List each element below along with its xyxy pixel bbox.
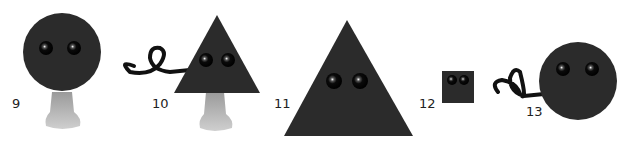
figure-label-11: 11 <box>274 96 291 111</box>
eye-icon <box>39 41 53 55</box>
eye-icon <box>447 75 457 85</box>
tail-icon <box>125 48 190 73</box>
figure-13 <box>495 42 617 120</box>
figure-label-12: 12 <box>419 96 436 111</box>
foot-icon <box>200 92 233 131</box>
tail-icon <box>495 70 544 96</box>
figure-label-13: 13 <box>526 104 543 119</box>
eye-icon <box>199 53 213 67</box>
eye-icon <box>67 41 81 55</box>
figure-9 <box>23 13 101 129</box>
eye-icon <box>352 73 368 89</box>
eye-icon <box>459 75 469 85</box>
figure-10 <box>125 15 260 131</box>
figure-label-9: 9 <box>12 96 20 111</box>
figure-label-10: 10 <box>152 96 169 111</box>
triangle-body <box>174 15 260 93</box>
circle-body <box>23 13 101 91</box>
figure-12 <box>442 71 474 103</box>
eye-icon <box>556 62 570 76</box>
foot-icon <box>46 92 81 129</box>
eye-icon <box>221 53 235 67</box>
figures-canvas <box>0 0 630 143</box>
figure-11 <box>284 20 413 136</box>
eye-icon <box>326 73 342 89</box>
eye-icon <box>585 62 599 76</box>
square-body <box>442 71 474 103</box>
circle-body <box>539 42 617 120</box>
triangle-body <box>284 20 413 136</box>
